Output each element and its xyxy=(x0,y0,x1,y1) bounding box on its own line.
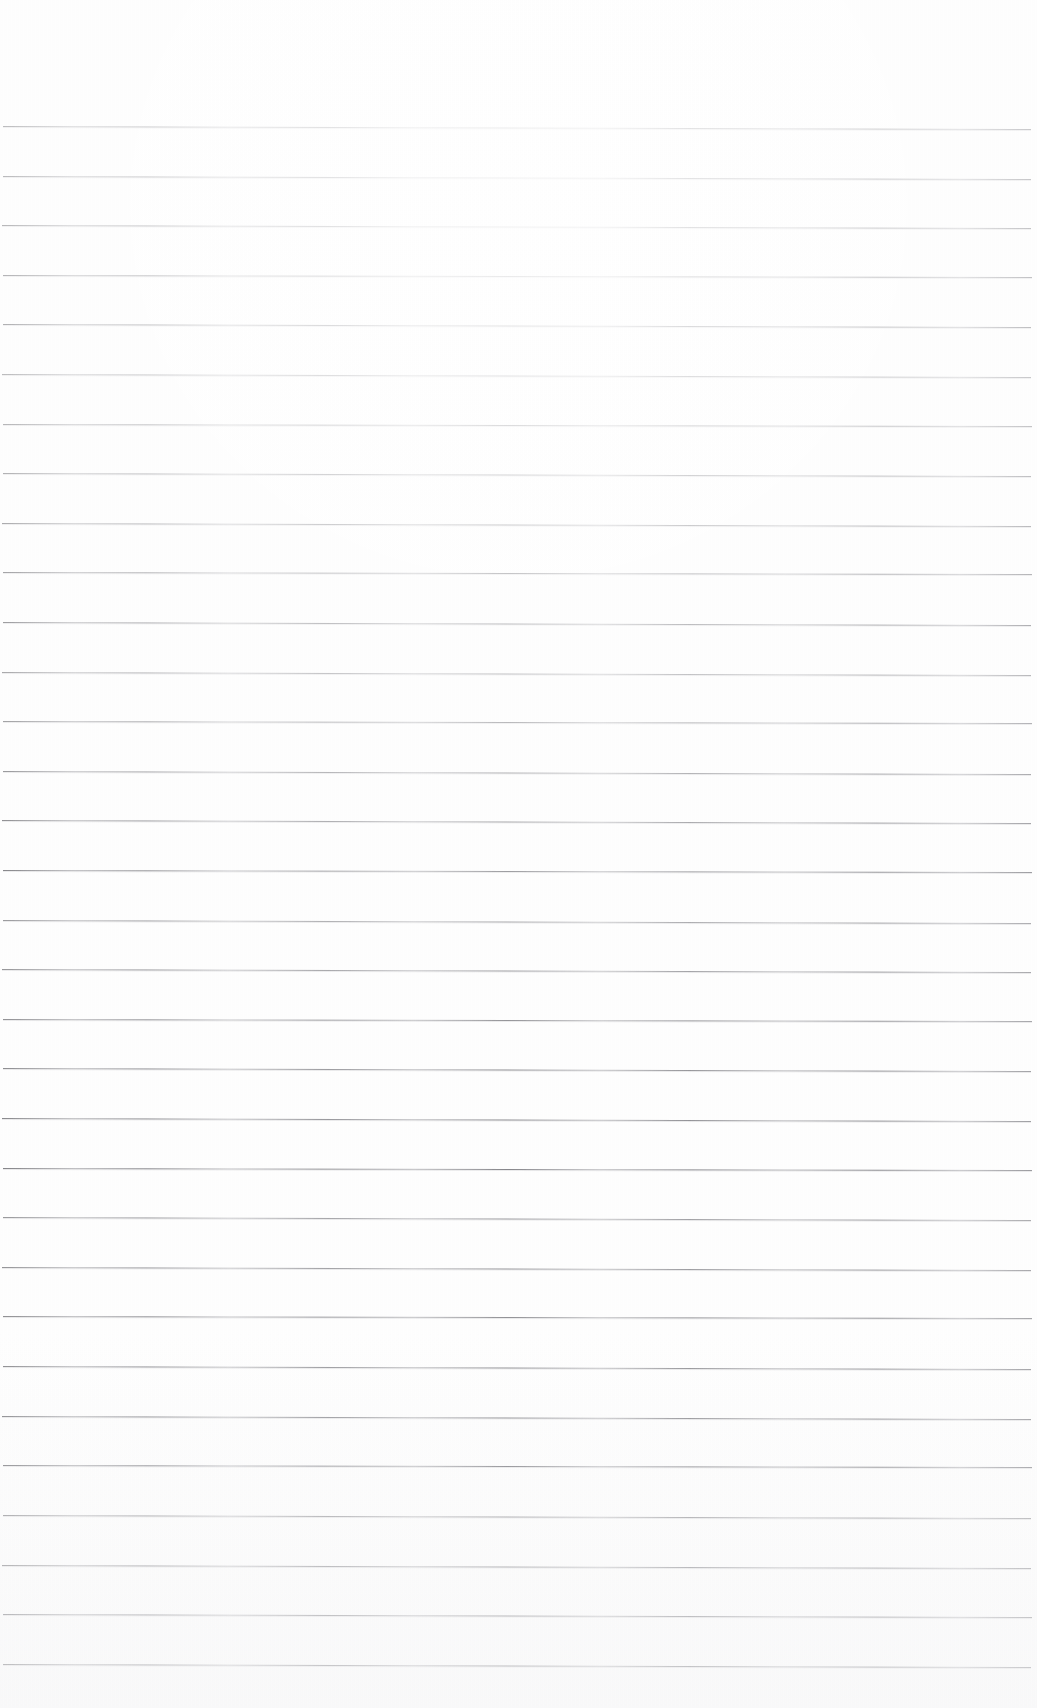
scanned-page xyxy=(0,0,1037,1708)
ruled-line xyxy=(3,1019,1032,1022)
ruled-line xyxy=(3,473,1031,477)
ruled-line xyxy=(2,672,1031,676)
ruled-line-ink xyxy=(3,721,1032,724)
ruled-line-ink xyxy=(2,1267,1031,1271)
ruled-line-ink xyxy=(3,1316,1032,1319)
ruled-line xyxy=(3,1217,1031,1221)
ruled-line xyxy=(3,1168,1032,1171)
ruled-line-ink xyxy=(2,523,1031,527)
ruled-line-ink xyxy=(2,1416,1031,1420)
ruled-line-ink xyxy=(3,1019,1032,1022)
ruled-line-ink xyxy=(3,1614,1032,1618)
ruled-line-ink xyxy=(2,672,1031,676)
ruled-line xyxy=(3,771,1031,775)
ruled-line xyxy=(3,1068,1031,1072)
ruled-line xyxy=(3,870,1032,873)
ruled-line-ink xyxy=(3,424,1032,427)
ruled-line-ink xyxy=(2,225,1031,229)
ruled-lines-layer xyxy=(0,0,1037,1708)
ruled-line-ink xyxy=(3,1366,1031,1370)
ruled-line-ink xyxy=(3,1515,1031,1519)
ruled-line-ink xyxy=(2,1565,1031,1569)
ruled-line xyxy=(3,424,1032,427)
ruled-line xyxy=(3,920,1031,924)
ruled-line xyxy=(2,374,1031,378)
ruled-line xyxy=(3,622,1031,626)
ruled-line-ink xyxy=(2,374,1031,378)
ruled-line xyxy=(3,1316,1032,1319)
ruled-line-ink xyxy=(3,473,1031,477)
ruled-line xyxy=(3,572,1032,575)
ruled-line xyxy=(3,1614,1032,1618)
ruled-line-ink xyxy=(3,275,1032,278)
ruled-line-ink xyxy=(3,1068,1031,1072)
ruled-line xyxy=(3,275,1032,278)
ruled-line xyxy=(3,1465,1032,1468)
ruled-line xyxy=(3,176,1031,180)
ruled-line-ink xyxy=(3,1465,1032,1468)
ruled-line-ink xyxy=(2,820,1031,824)
ruled-line-ink xyxy=(3,1168,1032,1171)
ruled-line-ink xyxy=(2,1118,1031,1122)
ruled-line-ink xyxy=(3,771,1031,775)
ruled-line xyxy=(2,225,1031,229)
ruled-line xyxy=(2,1416,1031,1420)
ruled-line-ink xyxy=(3,324,1031,328)
ruled-line-ink xyxy=(3,176,1031,180)
ruled-line-ink xyxy=(3,1217,1031,1221)
ruled-line xyxy=(2,1565,1031,1569)
ruled-line xyxy=(2,1118,1031,1122)
ruled-line-ink xyxy=(3,572,1032,575)
ruled-line xyxy=(3,1515,1031,1519)
ruled-line xyxy=(3,1664,1031,1668)
ruled-line xyxy=(3,1366,1031,1370)
ruled-line-ink xyxy=(3,622,1031,626)
ruled-line xyxy=(3,126,1031,130)
ruled-line-ink xyxy=(3,1664,1031,1668)
ruled-line-ink xyxy=(2,969,1031,973)
ruled-line xyxy=(2,523,1031,527)
ruled-line-ink xyxy=(3,920,1031,924)
ruled-line xyxy=(3,324,1031,328)
ruled-line xyxy=(2,1267,1031,1271)
ruled-line xyxy=(2,969,1031,973)
ruled-line-ink xyxy=(3,126,1031,130)
ruled-line-ink xyxy=(3,870,1032,873)
ruled-line xyxy=(3,721,1032,724)
ruled-line xyxy=(2,820,1031,824)
